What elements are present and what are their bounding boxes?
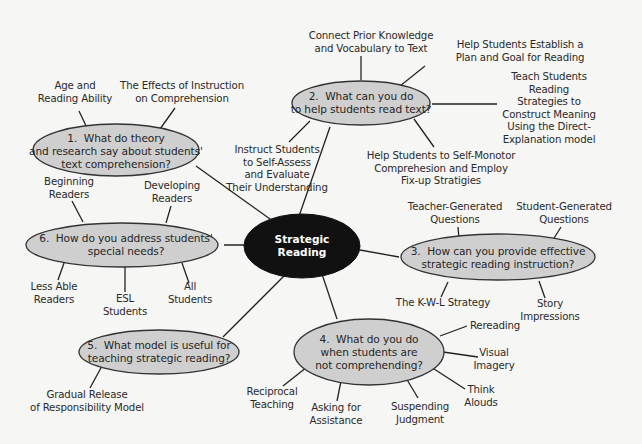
leaf-less-able-readers: Less Able Readers [31,281,78,306]
question-node-4: 4. What do you do when students are not … [315,333,423,371]
leaf-esl-students: ESL Students [103,293,147,318]
leaf-developing-readers: Developing Readers [144,180,200,205]
leaf-teacher-generated-questions: Teacher-Generated Questions [408,201,502,226]
leaf-rereading: Rereading [470,320,520,333]
leaf-self-assess-evaluate: Instruct Students to Self-Assess and Eva… [226,144,327,194]
leaf-asking-for-assistance: Asking for Assistance [310,402,363,427]
center-node-strategic-reading: Strategic Reading [275,233,330,259]
leaf-teach-reading-strategies: Teach Students Reading Strategies to Con… [502,71,596,147]
concept-map: Strategic Reading 1. What do theory and … [0,0,642,444]
leaf-self-monitor-comprehension: Help Students to Self-Monotor Comprehesi… [367,150,516,188]
leaf-effects-of-instruction: The Effects of Instruction on Comprehens… [120,80,244,105]
question-node-3: 3. How can you provide effective strateg… [411,245,586,271]
question-node-5: 5. What model is useful for teaching str… [87,339,231,365]
leaf-age-reading-ability: Age and Reading Ability [38,80,112,105]
question-node-1: 1. What do theory and research say about… [29,132,203,170]
leaf-story-impressions: Story Impressions [520,298,579,323]
leaf-reciprocal-teaching: Reciprocal Teaching [246,386,297,411]
leaf-all-students: All Students [168,281,212,306]
leaf-visual-imagery: Visual Imagery [473,347,514,372]
leaf-gradual-release-model: Gradual Release of Responsibility Model [30,389,144,414]
question-node-6: 6. How do you address students' special … [39,232,212,258]
leaf-suspending-judgment: Suspending Judgment [391,401,449,426]
question-node-2: 2. What can you do to help students read… [291,90,432,116]
leaf-beginning-readers: Beginning Readers [44,176,94,201]
leaf-kwl-strategy: The K-W-L Strategy [396,297,490,310]
leaf-think-alouds: Think Alouds [464,384,497,409]
leaf-connect-prior-knowledge: Connect Prior Knowledge and Vocabulary t… [309,30,434,55]
leaf-establish-plan-goal: Help Students Establish a Plan and Goal … [456,39,585,64]
leaf-student-generated-questions: Student-Generated Questions [516,201,612,226]
